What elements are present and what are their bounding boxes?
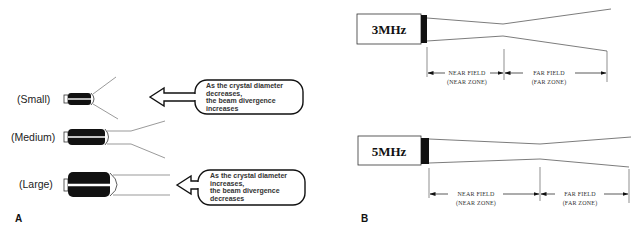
near-zone-label: (NEAR ZONE) xyxy=(456,200,496,207)
figure: (Small) (Medium) (Large) xyxy=(0,0,639,232)
beam-edge xyxy=(107,144,165,158)
left-arrow-icon xyxy=(150,88,196,106)
beam-edge xyxy=(427,9,611,24)
beam-edge xyxy=(93,77,116,94)
panel-label-a: A xyxy=(15,213,22,224)
size-label-medium: (Medium) xyxy=(11,131,55,143)
near-field-label: NEAR FIELD xyxy=(458,191,495,197)
panel-a: (Small) (Medium) (Large) xyxy=(11,77,305,224)
callout-decreases: As the crystal diameter decreases, the b… xyxy=(150,80,303,114)
callout-increases: As the crystal diameter increases, the b… xyxy=(177,170,305,205)
beam-edge xyxy=(427,36,607,51)
size-label-small: (Small) xyxy=(17,93,50,105)
beam-edge xyxy=(429,159,629,167)
transducer-small: (Small) xyxy=(17,77,118,119)
beam-edge xyxy=(429,137,631,144)
far-field-label: FAR FIELD xyxy=(564,191,596,197)
frequency-label: 5MHz xyxy=(372,144,407,159)
beam-edge xyxy=(93,104,118,119)
beam-diagram-3mhz: 3MHz NEAR FIELD (NEAR ZONE) FAR FIELD (F… xyxy=(357,9,611,86)
near-zone-label: (NEAR ZONE) xyxy=(447,79,487,86)
panel-b: 3MHz NEAR FIELD (NEAR ZONE) FAR FIELD (F… xyxy=(357,9,631,224)
far-zone-label: (FAR ZONE) xyxy=(563,200,598,207)
far-field-label: FAR FIELD xyxy=(533,70,565,76)
beam-edge xyxy=(107,121,165,131)
transducer-medium: (Medium) xyxy=(11,121,165,158)
near-field-label: NEAR FIELD xyxy=(449,70,486,76)
beam-diagram-5mhz: 5MHz NEAR FIELD (NEAR ZONE) FAR FIELD (F… xyxy=(358,136,631,207)
panel-label-b: B xyxy=(361,213,368,224)
transducer-large: (Large) xyxy=(19,172,170,197)
far-zone-label: (FAR ZONE) xyxy=(532,79,567,86)
frequency-label: 3MHz xyxy=(372,22,407,37)
left-arrow-icon xyxy=(177,176,199,194)
size-label-large: (Large) xyxy=(19,178,53,190)
